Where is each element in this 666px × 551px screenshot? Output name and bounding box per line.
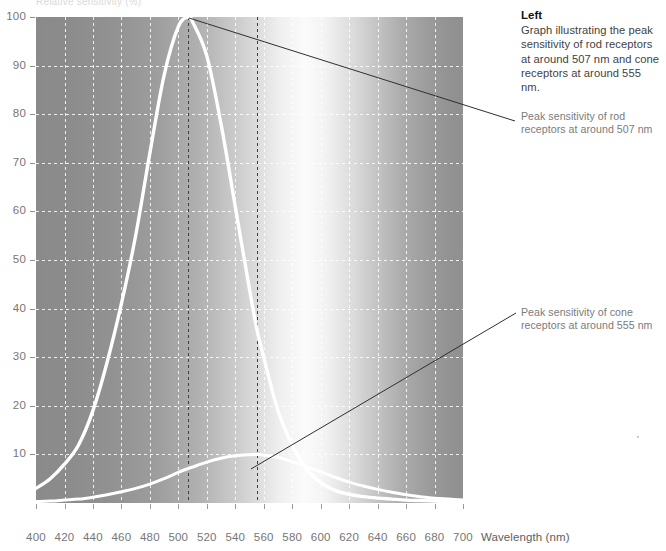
x-tick-mark-640 [378,504,379,509]
y-tick-mark-60 [30,211,35,212]
rod-curve [36,17,463,502]
x-tick-mark-580 [292,504,293,509]
x-tick-mark-660 [406,504,407,509]
x-tick-mark-400 [36,504,37,509]
y-tick-mark-20 [30,406,35,407]
x-tick-mark-480 [150,504,151,509]
x-tick-mark-560 [264,504,265,509]
x-tick-mark-600 [321,504,322,509]
x-tick-mark-420 [65,504,66,509]
y-tick-mark-70 [30,163,35,164]
callout-cone-peak: Peak sensitivity of cone receptors at ar… [521,306,666,333]
y-tick-mark-100 [30,17,35,18]
figure-header-faint: Relative sensitivity (%) [36,0,141,7]
cone-curve [36,454,463,501]
y-tick-label-50: 50 [0,254,26,265]
page-speck [637,436,639,438]
x-tick-mark-460 [121,504,122,509]
sensitivity-curves [36,17,463,503]
y-tick-label-40: 40 [0,303,26,314]
x-tick-mark-680 [435,504,436,509]
y-tick-mark-50 [30,260,35,261]
callout-rod-peak: Peak sensitivity of rod receptors at aro… [521,110,666,137]
y-tick-mark-80 [30,114,35,115]
x-tick-mark-440 [93,504,94,509]
y-tick-label-80: 80 [0,108,26,119]
y-tick-label-70: 70 [0,157,26,168]
caption-block: Left Graph illustrating the peak sensiti… [521,8,661,94]
caption-title: Left [521,8,661,22]
y-tick-label-10: 10 [0,448,26,459]
y-tick-label-20: 20 [0,400,26,411]
x-tick-label-700: 700 [443,531,483,543]
y-tick-label-90: 90 [0,60,26,71]
y-tick-mark-40 [30,309,35,310]
y-tick-mark-30 [30,357,35,358]
x-tick-mark-620 [349,504,350,509]
x-axis-title: Wavelength (nm) [481,531,570,543]
y-tick-label-30: 30 [0,351,26,362]
y-tick-label-100: 100 [0,11,26,22]
y-tick-mark-10 [30,454,35,455]
x-tick-mark-540 [235,504,236,509]
plot-area [36,17,463,503]
caption-body: Graph illustrating the peak sensitivity … [521,23,661,94]
x-tick-mark-520 [207,504,208,509]
y-tick-mark-90 [30,66,35,67]
x-tick-mark-500 [178,504,179,509]
y-tick-label-60: 60 [0,205,26,216]
figure-root: Relative sensitivity (%) 102030405060708… [0,0,666,551]
x-tick-mark-700 [463,504,464,509]
